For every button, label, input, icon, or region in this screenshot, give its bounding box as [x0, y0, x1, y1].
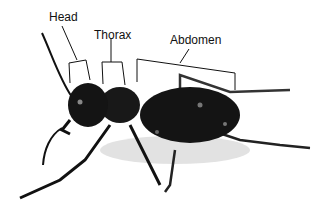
beetle-diagram: Head Thorax Abdomen: [0, 0, 328, 212]
beetle-illustration: [0, 0, 328, 212]
abdomen-label: Abdomen: [170, 34, 221, 46]
thorax-label: Thorax: [94, 29, 131, 41]
head-label: Head: [49, 11, 78, 23]
